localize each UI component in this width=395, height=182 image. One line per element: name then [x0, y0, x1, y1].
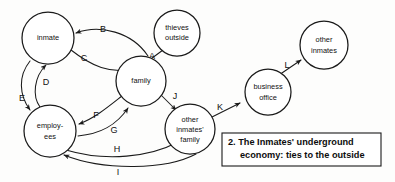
edge-E-label: E: [19, 93, 25, 103]
edge-E: E: [19, 61, 30, 110]
caption-line-2: economy: ties to the outside: [240, 150, 365, 160]
edge-B-path: [76, 29, 148, 56]
edge-C: C: [71, 50, 127, 70]
edge-C-path: [71, 50, 127, 70]
node-other-inmates-family-label-line3: family: [180, 135, 200, 144]
edge-D: D: [35, 65, 50, 107]
caption-line-1: 2. The Inmates' underground: [228, 137, 354, 147]
node-family-label: family: [131, 76, 151, 85]
edge-L-path: [279, 60, 301, 75]
node-other-inmates-family-label-line1: other: [182, 115, 199, 124]
edge-I: I: [64, 154, 196, 177]
node-other-inmates-label-line1: other: [316, 35, 333, 44]
node-thieves-outside-label-line2: outside: [165, 33, 189, 42]
node-other-inmates[interactable]: other inmates: [300, 21, 348, 69]
edge-K-label: K: [217, 102, 223, 112]
node-thieves-outside[interactable]: thieves outside: [154, 10, 200, 56]
node-other-inmates-label-line2: inmates: [311, 46, 337, 55]
edge-F-path: [79, 96, 122, 124]
edge-L: L: [279, 60, 301, 75]
node-family[interactable]: family: [116, 56, 166, 106]
node-inmate-label: inmate: [37, 33, 59, 42]
node-employees-label-line2: ees: [44, 132, 56, 141]
node-thieves-outside-label-line1: thieves: [165, 23, 189, 32]
node-other-inmates-family-label-line2: inmates': [176, 125, 204, 134]
node-inmate[interactable]: inmate: [22, 12, 74, 64]
edge-G: G: [78, 108, 128, 136]
node-business-office-label-line1: business: [253, 82, 282, 91]
edge-B: B: [76, 24, 148, 56]
edge-B-label: B: [100, 24, 106, 34]
edge-F-label: F: [93, 110, 99, 120]
edge-J-label: J: [173, 91, 178, 101]
node-other-inmates-family[interactable]: other inmates' family: [165, 104, 215, 154]
edge-G-path: [78, 108, 128, 136]
node-business-office-label-line2: office: [259, 93, 277, 102]
edge-I-label: I: [117, 167, 120, 177]
node-business-office[interactable]: business office: [245, 69, 291, 115]
edge-H: H: [66, 142, 178, 157]
edge-K-path: [210, 103, 240, 118]
edge-G-label: G: [110, 125, 117, 135]
node-employees[interactable]: employ- ees: [24, 105, 76, 157]
edge-L-label: L: [284, 60, 289, 70]
edge-H-path: [66, 142, 178, 157]
caption-box: 2. The Inmates' underground economy: tie…: [222, 133, 381, 166]
edge-D-label: D: [43, 77, 50, 87]
edge-K: K: [210, 102, 240, 118]
node-employees-label-line1: employ-: [37, 121, 64, 130]
edge-H-label: H: [114, 144, 121, 154]
edge-C-label: C: [81, 53, 88, 63]
diagram-canvas: A B C D E: [0, 0, 395, 182]
edge-F: F: [79, 96, 122, 124]
